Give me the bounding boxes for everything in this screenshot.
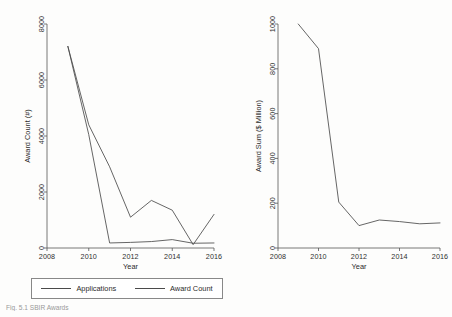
svg-text:2010: 2010	[310, 252, 326, 261]
svg-text:Award Count (#): Award Count (#)	[23, 109, 32, 163]
legend-swatch-applications	[41, 288, 71, 289]
award-sum-line-chart: 0200400600800100020082010201220142016Yea…	[226, 0, 452, 300]
svg-text:Award Sum ($ Million): Award Sum ($ Million)	[254, 100, 263, 172]
legend-entry-award-count: Award Count	[135, 284, 213, 293]
svg-text:2014: 2014	[164, 252, 180, 261]
svg-text:0: 0	[37, 246, 46, 250]
svg-text:2016: 2016	[432, 252, 448, 261]
svg-text:2008: 2008	[270, 252, 286, 261]
svg-text:800: 800	[268, 63, 277, 75]
svg-text:0: 0	[268, 246, 277, 250]
svg-text:1000: 1000	[268, 16, 277, 32]
svg-text:8000: 8000	[37, 16, 46, 32]
chart-panel-award-sum: 0200400600800100020082010201220142016Yea…	[226, 0, 452, 300]
svg-text:400: 400	[268, 152, 277, 164]
legend-entry-applications: Applications	[41, 284, 116, 293]
svg-text:2010: 2010	[81, 252, 97, 261]
svg-text:6000: 6000	[37, 72, 46, 88]
svg-text:2012: 2012	[122, 252, 138, 261]
svg-text:Year: Year	[352, 262, 367, 271]
svg-text:2000: 2000	[37, 184, 46, 200]
chart-panel-award-count: 0200040006000800020082010201220142016Yea…	[0, 0, 226, 300]
award-count-line-chart: 0200040006000800020082010201220142016Yea…	[0, 0, 226, 300]
legend-swatch-award-count	[135, 288, 165, 289]
svg-text:2012: 2012	[351, 252, 367, 261]
svg-text:Year: Year	[123, 262, 138, 271]
svg-text:4000: 4000	[37, 128, 46, 144]
svg-text:200: 200	[268, 197, 277, 209]
figure-container: 0200040006000800020082010201220142016Yea…	[0, 0, 452, 317]
legend-label-award-count: Award Count	[170, 284, 213, 293]
svg-text:2016: 2016	[206, 252, 222, 261]
figure-caption: Fig. 5.1 SBIR Awards	[6, 304, 186, 311]
svg-text:2014: 2014	[391, 252, 407, 261]
legend-label-applications: Applications	[76, 284, 116, 293]
svg-text:2008: 2008	[39, 252, 55, 261]
chart-legend: Applications Award Count	[31, 278, 223, 299]
svg-text:600: 600	[268, 107, 277, 119]
